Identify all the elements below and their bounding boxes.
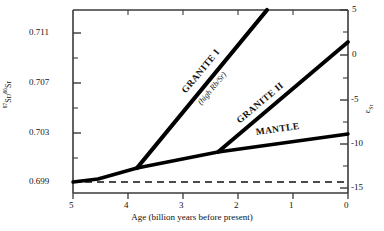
xtick-label-0: 0 <box>344 200 349 210</box>
ytick2-label-minus5: -5 <box>351 94 359 104</box>
ytick-label-0703: 0.703 <box>29 127 49 137</box>
y-axis-title-left-text: 87Sr/86Sr <box>4 81 13 108</box>
series-label-mantle: MANTLE <box>255 121 300 137</box>
plot-frame <box>73 10 348 193</box>
right-axis-ticks <box>340 10 348 188</box>
ytick-label-0711: 0.711 <box>29 27 49 37</box>
series-label-granite-1: GRANITE I (high Rb/Sr) <box>180 47 229 107</box>
xtick-label-5: 5 <box>69 200 74 210</box>
ytick-label-0699: 0.699 <box>29 176 49 186</box>
xtick-label-1: 1 <box>289 200 294 210</box>
left-axis-ticks <box>73 33 81 182</box>
xtick-label-3: 3 <box>179 200 184 210</box>
xtick-label-4: 4 <box>124 200 129 210</box>
ytick2-label-5: 5 <box>352 4 357 14</box>
ytick-label-0707: 0.707 <box>29 77 49 87</box>
sr-isotope-evolution-figure: GRANITE I (high Rb/Sr) GRANITE II MANTLE… <box>0 0 384 231</box>
ytick2-label-minus15: -15 <box>351 182 363 192</box>
x-axis-title: Age (billion years before present) <box>0 212 384 222</box>
chart-canvas: GRANITE I (high Rb/Sr) GRANITE II MANTLE <box>0 0 384 231</box>
ytick2-label-0: 0 <box>352 49 357 59</box>
series-line-granite-1 <box>137 10 267 168</box>
series-line-mantle <box>73 134 348 182</box>
y-axis-title-right-text: εSr <box>362 105 372 114</box>
y-axis-title-right: εSr <box>362 94 372 124</box>
y-axis-title-left: 87Sr/86Sr <box>4 73 13 117</box>
xtick-label-2: 2 <box>234 200 239 210</box>
ytick2-label-minus10: -10 <box>351 138 363 148</box>
bottom-axis-ticks <box>73 193 348 199</box>
